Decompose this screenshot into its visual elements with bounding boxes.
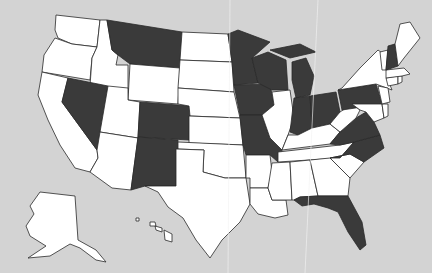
state-ms [268, 162, 292, 200]
state-co [138, 102, 190, 140]
us-map [0, 0, 432, 273]
state-ar [246, 155, 272, 188]
state-nd [180, 32, 232, 62]
state-wy [128, 64, 180, 104]
state-ks [189, 116, 243, 145]
state-sd [178, 60, 234, 92]
state-nm [131, 137, 178, 190]
state-in [290, 96, 312, 135]
